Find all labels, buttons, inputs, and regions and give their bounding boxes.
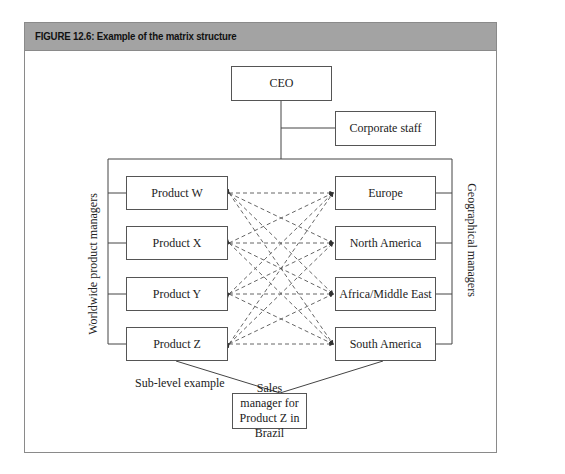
product-x-box: Product X [126,226,228,260]
geographical-managers-label: Geographical managers [464,183,479,297]
sales-manager-box: Sales manager for Product Z in Brazil [232,393,307,429]
ceo-label: CEO [270,76,294,91]
region-africa-middle-east-box: Africa/Middle East [335,277,436,311]
region-label: Europe [368,186,403,201]
product-label: Product Y [153,287,202,302]
corporate-staff-box: Corporate staff [335,111,436,146]
product-label: Product W [151,186,202,201]
product-w-box: Product W [126,176,228,210]
worldwide-product-managers-label: Worldwide product managers [86,193,101,335]
product-label: Product X [153,236,202,251]
ceo-box: CEO [231,66,332,101]
product-label: Product Z [153,337,201,352]
product-z-box: Product Z [126,327,228,361]
sub-level-example-label: Sub-level example [135,376,225,391]
region-label: Africa/Middle East [339,287,431,302]
region-label: South America [350,337,422,352]
region-south-america-box: South America [335,327,436,361]
region-north-america-box: North America [335,226,436,260]
sales-manager-label: Sales manager for Product Z in Brazil [236,381,303,441]
region-label: North America [350,236,422,251]
region-europe-box: Europe [335,176,436,210]
corporate-staff-label: Corporate staff [349,121,421,136]
product-y-box: Product Y [126,277,228,311]
